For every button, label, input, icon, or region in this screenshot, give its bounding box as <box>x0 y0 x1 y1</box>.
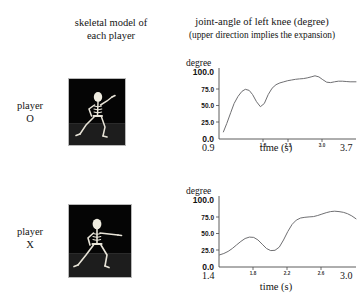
cropped-caption-artifact: · · · <box>150 0 270 4</box>
player-x-label: player X <box>2 226 58 251</box>
chart-x-curve <box>220 211 357 255</box>
chart-o-xaxis-start-label: 0.9 <box>202 142 215 153</box>
column-header-joint-angle: joint-angle of left knee (degree) (upper… <box>166 16 358 41</box>
chart-o-ytick-75: 75.0 <box>201 86 214 93</box>
chart-x-xaxis-start-label: 1.4 <box>202 270 215 281</box>
chart-x-xaxis-end-label: 3.0 <box>340 270 353 281</box>
chart-x-xtick-3: 2.6 <box>318 271 325 276</box>
chart-x-ytick-100: 100.0 <box>193 195 215 205</box>
column-header-skeletal-model-line1: skeletal model of <box>56 17 166 30</box>
column-header-joint-angle-line1: joint-angle of left knee (degree) <box>166 16 358 29</box>
chart-o-ytick-100: 100.0 <box>193 67 215 77</box>
chart-o-xaxis-end-label: 3.7 <box>340 142 353 153</box>
chart-x-xtick-1: 1.8 <box>250 271 257 276</box>
player-o-joint-angle-chart: degree 100.0 75.0 50.0 25.0 0.0 1.8 2.3 … <box>178 58 358 156</box>
player-o-label: player O <box>2 100 58 125</box>
chart-o-curve <box>223 76 356 132</box>
chart-o-ytick-25: 25.0 <box>201 119 214 126</box>
chart-x-xlabel: time (s) <box>236 281 316 292</box>
player-o-label-line2: O <box>2 113 58 126</box>
player-x-joint-angle-chart: degree 100.0 75.0 50.0 25.0 0.0 1.8 2.2 … <box>178 186 358 298</box>
column-header-skeletal-model: skeletal model of each player <box>56 17 166 42</box>
chart-x-ytick-25: 25.0 <box>201 247 214 254</box>
chart-o-xlabel: time (s) <box>236 142 316 153</box>
column-header-skeletal-model-line2: each player <box>56 30 166 43</box>
chart-o-ytick-50: 50.0 <box>201 102 214 109</box>
skeleton-figure-icon <box>69 205 131 277</box>
chart-o-xtick-3: 3.0 <box>319 143 326 148</box>
player-x-label-line2: X <box>2 239 58 252</box>
player-x-skeleton-photo <box>68 204 132 278</box>
chart-x-ytick-50: 50.0 <box>201 230 214 237</box>
player-o-skeleton-photo <box>68 78 126 146</box>
chart-x-ytick-75: 75.0 <box>201 214 214 221</box>
column-header-joint-angle-line2: (upper direction implies the expansion) <box>166 29 358 41</box>
player-o-label-line1: player <box>2 100 58 113</box>
skeleton-figure-icon <box>69 79 125 145</box>
player-x-label-line1: player <box>2 226 58 239</box>
chart-x-xtick-2: 2.2 <box>284 271 291 276</box>
